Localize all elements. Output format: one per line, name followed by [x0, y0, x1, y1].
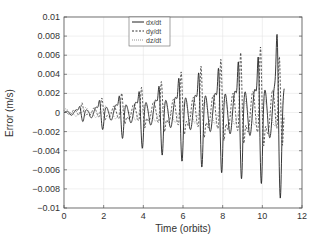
y-tick-label: −0.01 [37, 203, 60, 213]
x-tick-label: 4 [141, 211, 146, 221]
y-tick-label: −0.008 [32, 184, 60, 194]
error-vs-time-chart: −0.01−0.008−0.006−0.004−0.00200.0020.004… [0, 0, 323, 247]
y-tick-label: −0.002 [32, 127, 60, 137]
y-tick-label: 0.002 [37, 88, 60, 98]
legend: dx/dt dy/dt dz/dt [129, 17, 170, 46]
data-series [64, 34, 284, 198]
y-tick-label: −0.004 [32, 146, 60, 156]
x-tick-label: 10 [257, 211, 267, 221]
legend-label-dx: dx/dt [146, 19, 161, 26]
y-tick-label: 0 [55, 108, 60, 118]
x-axis-ticks: 024681012 [61, 205, 307, 221]
y-tick-label: 0.008 [37, 31, 60, 41]
x-tick-label: 0 [61, 211, 66, 221]
series-line-dx-dt [64, 34, 284, 198]
y-tick-label: −0.006 [32, 165, 60, 175]
y-axis-label: Error (m/s) [4, 89, 15, 137]
y-tick-label: 0.004 [37, 69, 60, 79]
x-tick-label: 2 [101, 211, 106, 221]
legend-label-dy: dy/dt [146, 28, 161, 36]
y-tick-label: 0.006 [37, 50, 60, 60]
x-tick-label: 12 [297, 211, 307, 221]
x-tick-label: 8 [220, 211, 225, 221]
y-tick-label: 0.01 [42, 12, 60, 22]
x-axis-label: Time (orbits) [155, 223, 211, 234]
x-tick-label: 6 [180, 211, 185, 221]
legend-label-dz: dz/dt [146, 37, 161, 44]
